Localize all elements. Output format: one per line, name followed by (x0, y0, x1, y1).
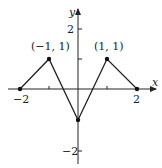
point (105, 57, 109, 61)
point (18, 87, 22, 91)
x-axis-label: x (152, 76, 159, 89)
point-annotation: (1, 1) (94, 40, 124, 53)
x-tick-label: −2 (13, 93, 29, 106)
point (76, 118, 80, 122)
function-graph: y x −2 2 2 −2 (−1, 1) (1, 1) (0, 0, 162, 168)
point (47, 57, 51, 61)
point-annotation: (−1, 1) (31, 40, 70, 53)
y-tick-label: 2 (67, 23, 74, 36)
x-tick-label: 2 (133, 93, 140, 106)
y-axis-label: y (68, 6, 76, 19)
y-tick-label: −2 (62, 145, 78, 158)
point (135, 87, 139, 91)
